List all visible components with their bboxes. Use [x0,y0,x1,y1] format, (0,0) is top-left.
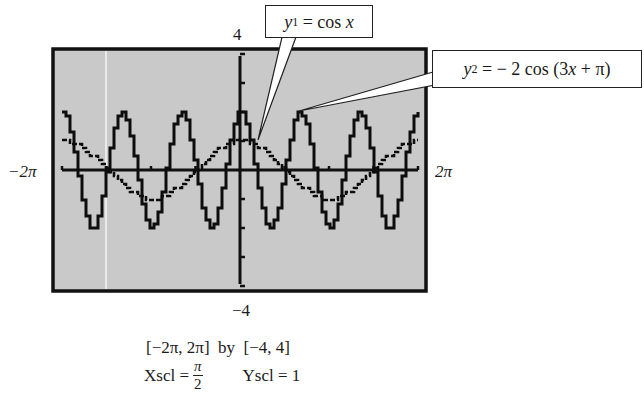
callout-y1-rest: = cos [298,13,346,31]
callout-y2-rest: = − 2 cos (3 [477,60,568,78]
callout-y1-x: x [346,13,354,31]
callout-y2-var: y [463,60,471,78]
y-max-label: 4 [233,26,242,43]
callout-y2-x: x [568,60,576,78]
x-max-label: 2π [435,163,452,180]
callout-y2: y2 = − 2 cos (3x + π) [432,50,642,88]
yscl-label: Yscl = 1 [243,366,301,386]
scale-caption: Xscl = π 2 Yscl = 1 [144,359,300,392]
xscl-numerator: π [193,359,203,376]
x-min-label: −2π [8,163,37,180]
callout-y1: y1 = cos x [265,5,373,38]
y-min-label: −4 [232,302,250,319]
callout-y2-tail: + π) [576,60,610,78]
xscl-label: Xscl = [144,366,189,386]
window-caption: [−2π, 2π] by [−4, 4] [146,338,290,358]
callout-y1-var: y [284,13,292,31]
xscl-denominator: 2 [194,376,202,392]
xscl-fraction: π 2 [193,359,203,392]
